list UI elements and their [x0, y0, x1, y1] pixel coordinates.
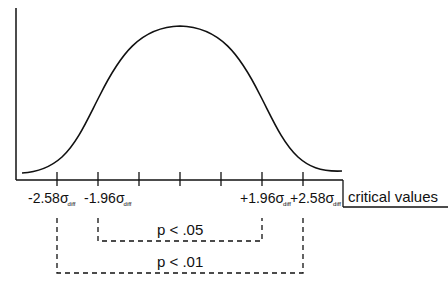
tick-label-neg-2-58: -2.58σdiff	[28, 190, 75, 212]
tick-label-neg-1-96: -1.96σdiff	[84, 190, 131, 212]
bracket-label-p05: p < .05	[157, 222, 203, 238]
normal-curve	[22, 26, 342, 173]
axis-label-critical-values: critical values	[348, 189, 438, 205]
normal-distribution-diagram	[0, 0, 448, 286]
x-ticks	[57, 172, 303, 186]
bracket-label-p01: p < .01	[157, 254, 203, 270]
tick-label-pos-1-96: +1.96σdiff	[240, 190, 291, 212]
tick-label-pos-2-58: +2.58σdiff	[290, 190, 341, 212]
